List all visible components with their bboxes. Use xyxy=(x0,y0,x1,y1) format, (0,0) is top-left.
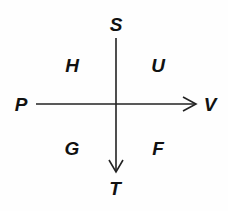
quadrant-label-h: H xyxy=(65,56,79,75)
label-top-s: S xyxy=(110,15,123,34)
quadrant-label-u: U xyxy=(151,56,165,75)
quadrant-label-f: F xyxy=(152,139,164,158)
label-left-p: P xyxy=(15,95,28,114)
quadrant-label-g: G xyxy=(65,139,80,158)
axes-diagram: S T P V H U G F xyxy=(0,0,228,211)
label-bottom-t: T xyxy=(109,179,121,198)
label-right-v: V xyxy=(204,95,217,114)
